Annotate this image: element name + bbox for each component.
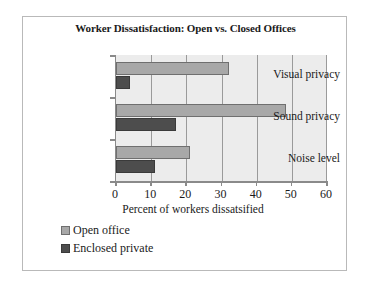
x-axis-tick-60	[326, 181, 328, 186]
x-axis-tick-0	[115, 181, 117, 186]
x-axis-tick-label-50: 50	[276, 187, 306, 202]
x-axis-tick-50	[291, 181, 293, 186]
x-axis-tick-40	[256, 181, 258, 186]
y-axis-tick-2	[110, 139, 115, 141]
x-axis-tick-30	[221, 181, 223, 186]
bar-open-office-visual-privacy[interactable]	[116, 62, 229, 75]
category-label-noise-level: Noise level	[254, 152, 346, 164]
category-label-text: Visual privacy	[273, 68, 346, 80]
category-label-sound-privacy: Sound privacy	[254, 110, 346, 122]
y-axis-tick-1	[110, 97, 115, 99]
y-axis-tick-0	[110, 55, 115, 57]
legend-label-enclosed-private: Enclosed private	[73, 241, 153, 256]
category-label-text: Noise level	[288, 152, 346, 164]
bar-enclosed-private-sound-privacy[interactable]	[116, 118, 176, 131]
legend-swatch-icon-enclosed-private	[61, 244, 70, 253]
x-axis-tick-20	[185, 181, 187, 186]
legend-label-open-office: Open office	[73, 223, 130, 238]
x-axis-tick-label-60: 60	[311, 187, 341, 202]
category-label-visual-privacy: Visual privacy	[254, 68, 346, 80]
bar-enclosed-private-visual-privacy[interactable]	[116, 76, 130, 89]
chart-legend: Open office Enclosed private	[61, 221, 153, 257]
x-axis-title: Percent of workers dissatsified	[63, 203, 323, 215]
x-axis-tick-label-20: 20	[170, 187, 200, 202]
bar-open-office-noise-level[interactable]	[116, 146, 190, 159]
chart-figure-frame: Worker Dissatisfaction: Open vs. Closed …	[22, 16, 347, 271]
x-axis-tick-10	[150, 181, 152, 186]
x-axis-tick-label-10: 10	[135, 187, 165, 202]
legend-item-open-office[interactable]: Open office	[61, 221, 153, 239]
legend-swatch-icon-open-office	[61, 226, 70, 235]
category-label-text: Sound privacy	[273, 110, 346, 122]
x-axis-tick-label-0: 0	[100, 187, 130, 202]
legend-item-enclosed-private[interactable]: Enclosed private	[61, 239, 153, 257]
x-axis-tick-label-30: 30	[206, 187, 236, 202]
chart-title: Worker Dissatisfaction: Open vs. Closed …	[63, 22, 308, 35]
x-axis-tick-label-40: 40	[241, 187, 271, 202]
bar-enclosed-private-noise-level[interactable]	[116, 160, 155, 173]
